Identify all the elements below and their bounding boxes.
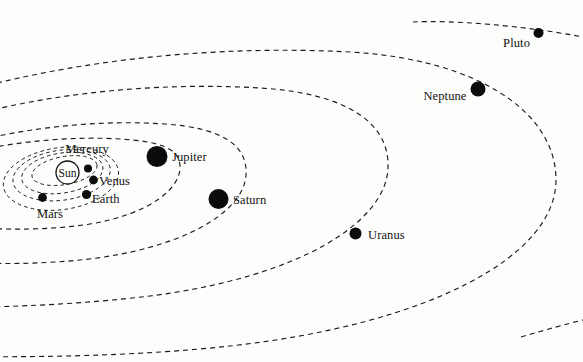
orbits-layer (0, 22, 583, 357)
orbit-uranus (0, 86, 388, 307)
uranus-label: Uranus (368, 228, 405, 242)
earth-marker (82, 190, 91, 199)
mars-marker (38, 193, 47, 202)
jupiter-label: Jupiter (172, 150, 207, 164)
saturn-marker (209, 189, 229, 209)
uranus-marker (350, 228, 362, 240)
orbit-pluto (521, 320, 583, 337)
mercury-label: Mercury (65, 142, 109, 156)
jupiter-marker (147, 146, 168, 167)
neptune-label: Neptune (423, 89, 466, 103)
saturn-label: Saturn (233, 193, 267, 207)
mars-label: Mars (37, 207, 63, 221)
pluto-marker (534, 28, 544, 38)
bodies-layer (38, 28, 543, 240)
mercury-marker (84, 165, 92, 173)
venus-label: Venus (99, 174, 130, 188)
orbit-saturn (0, 123, 246, 264)
pluto-label: Pluto (503, 36, 530, 50)
earth-label: Earth (92, 192, 120, 206)
sun-label: Sun (58, 167, 76, 179)
orbit-neptune (0, 50, 556, 356)
solar-system-canvas: SunMercuryVenusEarthMarsJupiterSaturnUra… (0, 0, 583, 362)
venus-marker (89, 176, 98, 185)
neptune-marker (471, 82, 486, 97)
orbit-pluto (413, 22, 583, 37)
solar-system-diagram: SunMercuryVenusEarthMarsJupiterSaturnUra… (0, 0, 583, 362)
